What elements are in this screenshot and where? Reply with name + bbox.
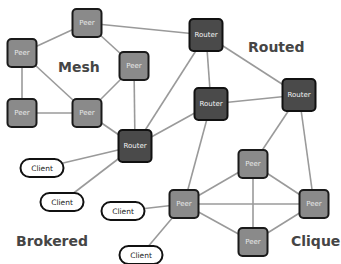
- client-label: Client: [112, 207, 134, 216]
- peer-label: Peer: [14, 49, 30, 57]
- client-label: Client: [31, 164, 53, 173]
- group-label-mesh: Mesh: [58, 59, 100, 75]
- edge-p1-r1: [87, 23, 206, 35]
- peer-label: Peer: [245, 238, 261, 246]
- client-node-c3[interactable]: Client: [102, 202, 145, 220]
- network-topology-diagram: PeerPeerPeerPeerPeerRouterRouterRouterRo…: [0, 0, 341, 264]
- client-node-c4[interactable]: Client: [120, 246, 163, 264]
- router-label: Router: [194, 31, 217, 39]
- peer-label: Peer: [176, 200, 192, 208]
- router-label: Router: [287, 91, 310, 99]
- router-label: Router: [123, 142, 146, 150]
- peer-label: Peer: [79, 109, 95, 117]
- edges-layer: [22, 23, 314, 255]
- client-label: Client: [51, 198, 73, 207]
- group-label-brokered: Brokered: [16, 233, 88, 249]
- peer-label: Peer: [245, 160, 261, 168]
- client-node-c2[interactable]: Client: [41, 193, 84, 211]
- peer-node-p5[interactable]: Peer: [73, 99, 102, 127]
- router-node-r2[interactable]: Router: [195, 88, 228, 120]
- client-node-c1[interactable]: Client: [21, 159, 64, 177]
- router-node-r3[interactable]: Router: [283, 79, 316, 111]
- router-node-r4[interactable]: Router: [119, 130, 152, 162]
- peer-node-q3[interactable]: Peer: [300, 190, 329, 218]
- peer-node-p1[interactable]: Peer: [73, 9, 102, 37]
- group-label-clique: Clique: [291, 233, 340, 249]
- group-label-routed: Routed: [248, 39, 305, 55]
- peer-label: Peer: [306, 200, 322, 208]
- router-label: Router: [199, 100, 222, 108]
- peer-node-q2[interactable]: Peer: [170, 190, 199, 218]
- peer-label: Peer: [126, 62, 142, 70]
- peer-node-q1[interactable]: Peer: [239, 150, 268, 178]
- peer-node-p3[interactable]: Peer: [120, 52, 149, 80]
- peer-label: Peer: [14, 109, 30, 117]
- router-node-r1[interactable]: Router: [190, 19, 223, 51]
- peer-label: Peer: [79, 19, 95, 27]
- peer-node-q4[interactable]: Peer: [239, 228, 268, 256]
- peer-node-p2[interactable]: Peer: [8, 39, 37, 67]
- client-label: Client: [130, 251, 152, 260]
- peer-node-p4[interactable]: Peer: [8, 99, 37, 127]
